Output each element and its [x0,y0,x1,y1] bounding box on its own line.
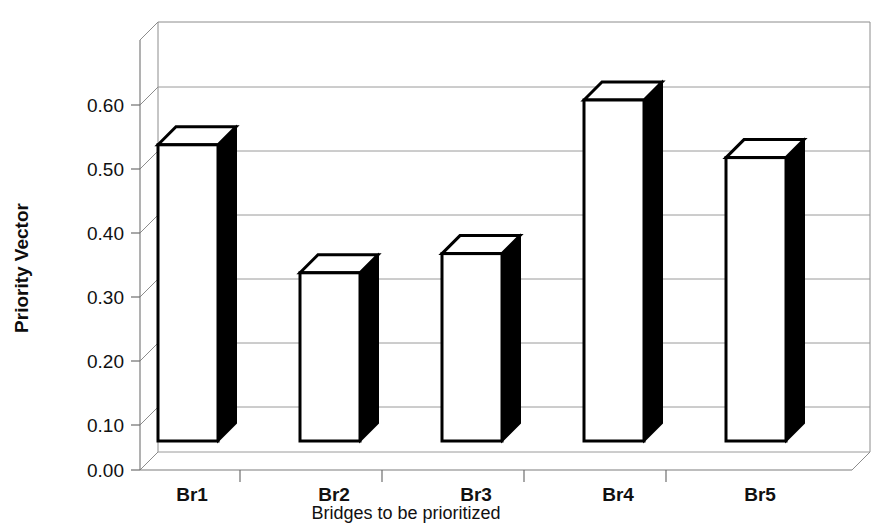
bar-chart-3d: 0.60 0.50 0.40 0.30 0.20 0.10 0.00 Prior… [0,0,889,525]
bar-side-face [502,236,520,441]
y-tick-label: 0.10 [87,415,124,436]
y-axis-title: Priority Vector [11,202,32,332]
y-axis-ticks [131,105,140,470]
y-tick-label: 0.60 [87,95,124,116]
y-axis-tick-labels: 0.60 0.50 0.40 0.30 0.20 0.10 0.00 [87,95,124,481]
x-axis-tick-labels: Br1Br2Br3Br4Br5 [176,484,776,505]
y-tick-label: 0.40 [87,223,124,244]
bar-front-face [158,145,218,441]
bar-front-face [300,273,360,441]
bar-front-face [442,254,502,441]
bar-side-face [360,255,378,441]
x-tick-label-br1: Br1 [176,484,208,505]
x-axis-ticks [240,470,666,482]
bar-front-face [584,100,644,441]
bar-side-face [218,127,236,441]
chart-container: 0.60 0.50 0.40 0.30 0.20 0.10 0.00 Prior… [0,0,889,525]
bar-br1[interactable] [158,127,236,441]
bar-side-face [644,82,662,441]
x-tick-label-br3: Br3 [460,484,492,505]
bar-side-face [786,140,804,441]
bar-br2[interactable] [300,255,378,441]
x-tick-label-br4: Br4 [602,484,634,505]
plot-side-wall [140,22,158,470]
y-tick-label: 0.30 [87,287,124,308]
bar-front-face [726,158,786,441]
x-axis-title: Bridges to be prioritized [311,503,500,523]
plot-floor [140,452,870,470]
bar-br3[interactable] [442,236,520,441]
y-tick-label: 0.20 [87,351,124,372]
x-tick-label-br5: Br5 [744,484,776,505]
y-tick-label: 0.00 [87,460,124,481]
x-tick-label-br2: Br2 [318,484,350,505]
bar-br5[interactable] [726,140,804,441]
y-tick-label: 0.50 [87,159,124,180]
bar-br4[interactable] [584,82,662,441]
